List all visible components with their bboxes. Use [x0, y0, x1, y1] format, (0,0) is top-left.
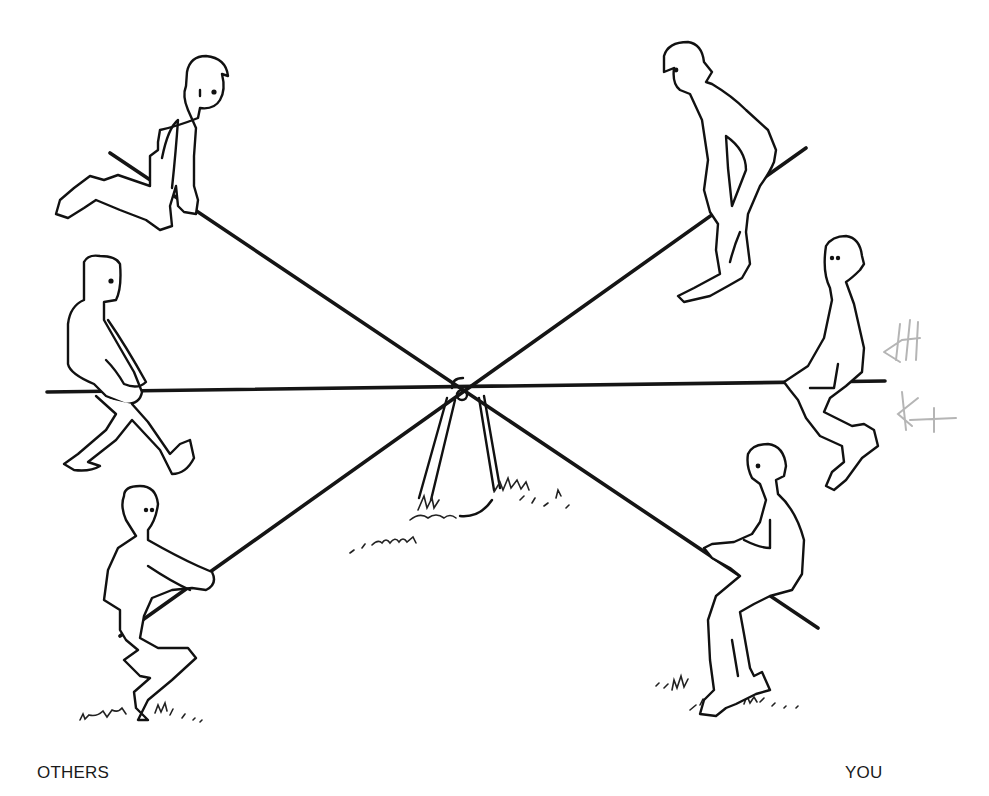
beam-diagonal-up [120, 148, 806, 636]
figure-others-bottom [104, 486, 214, 720]
figure-others-middle [64, 256, 194, 474]
pivot-stand [419, 378, 500, 516]
pencil-annotations [884, 320, 956, 432]
figure-you-top [664, 42, 776, 302]
figure-you-middle [784, 236, 878, 490]
grass-tufts [80, 478, 798, 722]
figure-others-top [56, 56, 228, 230]
figure-you-bottom [700, 444, 804, 716]
seesaw-illustration [0, 0, 989, 796]
you-label: YOU [845, 763, 882, 783]
others-label: OTHERS [37, 763, 109, 783]
